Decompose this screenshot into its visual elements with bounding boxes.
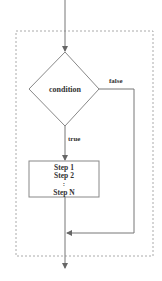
- loop-boundary: [16, 31, 153, 256]
- flowchart: condition true Step 1 Step 2 : Step N fa…: [0, 0, 162, 281]
- step-n: Step N: [53, 188, 75, 197]
- true-label: true: [68, 135, 80, 143]
- step-2: Step 2: [54, 171, 74, 180]
- decision-label: condition: [49, 85, 82, 94]
- false-label: false: [109, 77, 123, 85]
- step-ellipsis: :: [63, 180, 65, 188]
